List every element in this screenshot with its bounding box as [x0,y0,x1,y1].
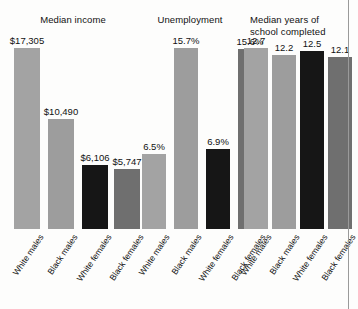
chart-panel-median-income: Median income $17,305$10,490$6,106$5,747… [8,0,138,309]
chart-figure: Median income $17,305$10,490$6,106$5,747… [0,0,358,309]
x-axis-label: White males [12,233,46,277]
bar-group: 6.5%15.7%6.9%15.6% [138,40,242,229]
bar-value-label: 6.5% [143,142,165,152]
plot-area: $17,305$10,490$6,106$5,747 [8,40,138,229]
panel-title: Median years of school completed [250,14,346,37]
page-divider-rule [348,0,349,309]
plot-area: 6.5%15.7%6.9%15.6% [138,40,242,229]
x-axis-labels: White malesBlack malesWhite femalesBlack… [8,233,138,309]
bar-value-label: $17,305 [10,36,44,46]
bar-group: $17,305$10,490$6,106$5,747 [8,40,138,229]
bar-value-label: 12.1 [331,45,350,55]
panel-title-line1: Unemployment [157,14,222,25]
x-axis-label: White males [138,233,172,277]
bar-value-label: 12.7 [247,36,266,46]
panel-title: Unemployment [138,14,242,26]
x-axis-labels: White malesBlack malesWhite femalesBlack… [138,233,242,309]
bar[interactable] [206,149,230,229]
bar[interactable] [142,154,166,229]
bar-value-label: 12.5 [303,39,322,49]
bar-value-label: $6,106 [80,153,109,163]
panel-title-line1: Median years of [250,14,319,25]
chart-panel-unemployment: Unemployment 6.5%15.7%6.9%15.6% White ma… [138,0,242,309]
bar-group: 12.712.212.512.1 [242,40,346,229]
bar[interactable] [114,169,140,229]
bar-value-label: 6.9% [207,137,229,147]
bar-value-label: 12.2 [275,43,294,53]
chart-panel-median-years-school: Median years of school completed 12.712.… [242,0,346,309]
bar-value-label: $10,490 [44,107,78,117]
x-axis-label: Black males [46,233,79,276]
panel-title: Median income [8,14,138,26]
bar[interactable] [48,119,74,229]
panel-title-line1: Median income [40,14,106,25]
bar[interactable] [272,55,296,229]
bar[interactable] [174,48,198,229]
bar[interactable] [14,48,40,229]
bar[interactable] [244,48,268,229]
x-axis-labels: White malesBlack malesWhite femalesBlack… [242,233,346,309]
bar-value-label: 15.7% [173,36,200,46]
bar[interactable] [300,51,324,229]
x-axis-label: Black males [170,233,203,276]
plot-area: 12.712.212.512.1 [242,40,346,229]
bar[interactable] [82,165,108,229]
